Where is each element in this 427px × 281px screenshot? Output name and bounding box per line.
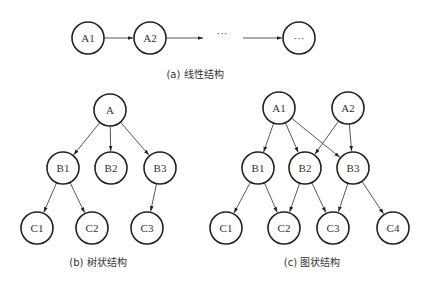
edge-b1-c1 [44, 183, 57, 213]
edge-b1-c2 [70, 182, 85, 212]
node-label: B3 [347, 162, 360, 174]
node-b3: B3 [337, 152, 369, 184]
tree-structure-diagram: AB1B2B3C1C2C3 [21, 94, 176, 244]
graph-structure-diagram: A1A2B1B2B3C1C2C3C4 [210, 92, 409, 244]
node-c3: C3 [131, 212, 163, 244]
linear-structure-diagram: ···A1A2··· [72, 22, 315, 54]
node-b3: B3 [144, 152, 176, 184]
node-label: A1 [272, 102, 285, 114]
edge-a1-b3 [291, 118, 339, 157]
node-label: C4 [387, 222, 400, 234]
node-label: A2 [341, 102, 354, 114]
edge-b3-c3 [338, 183, 348, 212]
node-label: C3 [141, 222, 154, 234]
node-label: A2 [143, 32, 156, 44]
caption-tree: (b) 树状结构 [69, 256, 126, 268]
node-label: C3 [327, 222, 340, 234]
node-label: B3 [154, 162, 167, 174]
node-a1: A1 [263, 92, 295, 124]
edge-b3-c3 [151, 184, 157, 212]
edge-b1-c2 [264, 183, 277, 213]
edge-b1-c1 [234, 182, 250, 213]
edge-a-b3 [120, 122, 148, 155]
node-label: B2 [299, 162, 312, 174]
node-c4: C4 [377, 212, 409, 244]
node-label: B1 [57, 162, 70, 174]
ellipsis-text: ··· [217, 27, 228, 39]
node-label: A1 [81, 32, 94, 44]
edge-b2-c2 [290, 183, 300, 212]
edge-a2-b3 [349, 124, 351, 151]
edge-b2-c3 [312, 182, 326, 212]
edge-a-b1 [74, 122, 100, 154]
node-b2: B2 [289, 152, 321, 184]
node-b2: B2 [95, 152, 127, 184]
node-b1: B1 [242, 152, 274, 184]
node-label: C2 [86, 222, 99, 234]
caption-graph: (c) 图状结构 [284, 256, 340, 268]
node-c1: C1 [21, 212, 53, 244]
node-label: ··· [294, 32, 305, 44]
node-b1: B1 [47, 152, 79, 184]
node-a: A [94, 94, 126, 126]
node-end: ··· [283, 22, 315, 54]
node-label: B1 [252, 162, 265, 174]
edge-b3-c4 [362, 181, 384, 214]
node-label: C1 [31, 222, 44, 234]
data-structure-figure: ···A1A2··· AB1B2B3C1C2C3 A1A2B1B2B3C1C2C… [0, 0, 427, 281]
node-c1: C1 [210, 212, 242, 244]
node-label: C1 [220, 222, 233, 234]
caption-linear: (a) 线性结构 [166, 68, 223, 80]
edge-a1-b2 [285, 123, 298, 153]
node-a2: A2 [134, 22, 166, 54]
node-c3: C3 [317, 212, 349, 244]
node-label: B2 [105, 162, 118, 174]
edge-a1-b1 [264, 123, 274, 152]
edge-a2-b2 [315, 121, 339, 154]
node-a2: A2 [332, 92, 364, 124]
node-c2: C2 [76, 212, 108, 244]
node-a1: A1 [72, 22, 104, 54]
node-c2: C2 [268, 212, 300, 244]
node-label: C2 [278, 222, 291, 234]
node-label: A [106, 104, 114, 116]
